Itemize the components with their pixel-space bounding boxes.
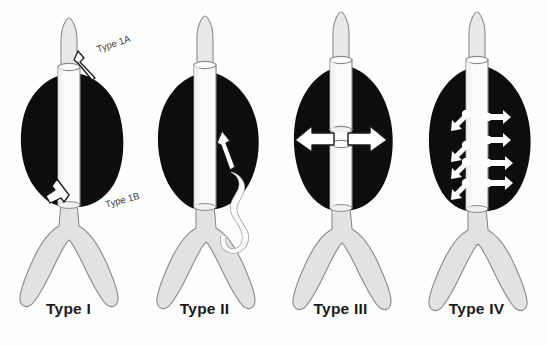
panel-type-i-illustration <box>0 0 137 345</box>
panel-type-ii: Type II <box>136 0 273 345</box>
stent-graft-proximal-segment-type-iii <box>330 56 352 133</box>
endoleak-classification-figure: Type 1A Type 1B Type I <box>0 0 547 345</box>
proximal-neck-type-iii <box>333 12 349 62</box>
stent-graft-distal-segment-type-iii <box>330 140 352 211</box>
panel-type-iii: Type III <box>272 0 409 345</box>
caption-type-iv: Type IV <box>408 300 545 318</box>
caption-type-i: Type I <box>0 300 137 318</box>
proximal-neck-type-iv <box>469 12 485 62</box>
panel-type-ii-illustration <box>136 0 273 345</box>
panel-type-i: Type 1A Type 1B Type I <box>0 0 137 345</box>
stent-graft-type-ii <box>194 61 216 210</box>
panel-type-iv: Type IV <box>408 0 545 345</box>
caption-type-ii: Type II <box>136 300 273 318</box>
aorta-bifurcation-type-i <box>20 203 118 307</box>
proximal-neck-type-i <box>61 18 77 70</box>
aorta-bifurcation-type-iv <box>429 207 527 311</box>
aorta-bifurcation-type-iii <box>293 206 391 310</box>
panel-type-iv-illustration <box>408 0 547 345</box>
panel-type-iii-illustration <box>272 0 409 345</box>
proximal-neck-type-ii <box>197 16 213 68</box>
stent-graft-type-iv <box>466 56 488 212</box>
caption-type-iii: Type III <box>272 300 409 318</box>
